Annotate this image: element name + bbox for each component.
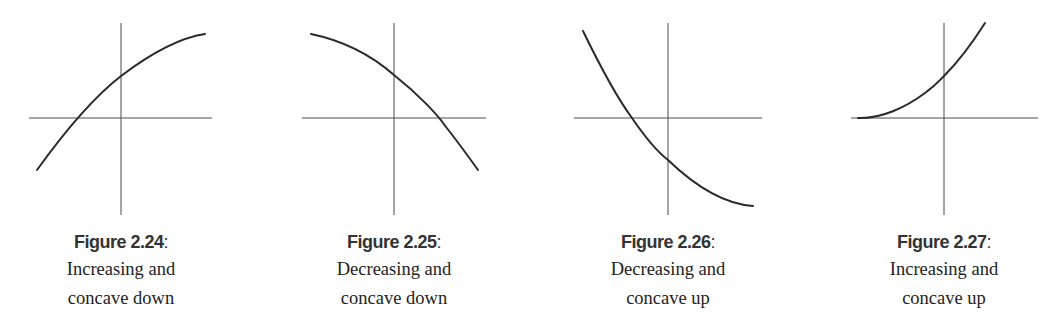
figure-label: Figure 2.25 <box>347 232 437 252</box>
figure-2-27-caption: Figure 2.27: Increasing and concave up <box>844 229 1044 313</box>
colon: : <box>711 232 716 252</box>
caption-line-2: concave up <box>568 284 768 313</box>
figure-2-26-plot <box>574 23 762 215</box>
figure-label: Figure 2.26 <box>621 232 711 252</box>
colon: : <box>164 232 169 252</box>
caption-line-1: Decreasing and <box>294 255 494 284</box>
figure-2-27-plot <box>851 23 1038 215</box>
figure-2-25-caption: Figure 2.25: Decreasing and concave down <box>294 229 494 313</box>
caption-line-2: concave up <box>844 284 1044 313</box>
caption-line-1: Increasing and <box>21 255 221 284</box>
colon: : <box>437 232 442 252</box>
figure-2-24-caption: Figure 2.24: Increasing and concave down <box>21 229 221 313</box>
caption-line-2: concave down <box>21 284 221 313</box>
caption-line-1: Increasing and <box>844 255 1044 284</box>
caption-line-2: concave down <box>294 284 494 313</box>
caption-line-1: Decreasing and <box>568 255 768 284</box>
figure-2-25-plot <box>302 23 486 215</box>
increasing-concave-up-curve <box>858 23 985 118</box>
figure-2-26-caption: Figure 2.26: Decreasing and concave up <box>568 229 768 313</box>
colon: : <box>987 232 992 252</box>
figure-label: Figure 2.24 <box>74 232 164 252</box>
figure-label: Figure 2.27 <box>897 232 987 252</box>
figure-2-24-plot <box>29 23 212 215</box>
